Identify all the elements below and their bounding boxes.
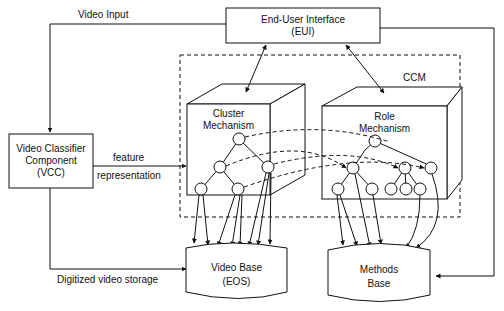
representation-label: representation [97, 170, 161, 182]
methods-base-line2: Base [328, 278, 430, 290]
eui-box-label: End-User Interface (EUI) [226, 14, 380, 38]
digitized-storage-label: Digitized video storage [57, 274, 158, 286]
vcc-box-label: Video Classifier Component (VCC) [9, 143, 93, 179]
eui-abbr: (EUI) [226, 26, 380, 38]
role-line2: Mechanism [322, 123, 447, 135]
video-base-line2: (EOS) [186, 276, 287, 288]
cluster-line1: Cluster [187, 108, 270, 120]
role-mechanism-label: Role Mechanism [322, 111, 447, 135]
ccm-label: CCM [403, 72, 426, 84]
vcc-line1: Video Classifier [9, 143, 93, 155]
architecture-diagram: Video Input End-User Interface (EUI) CCM… [0, 0, 504, 311]
vcc-line2: Component [9, 155, 93, 167]
cluster-cube [187, 84, 305, 195]
methods-base-label: Methods Base [328, 264, 430, 290]
vcc-line3: (VCC) [9, 167, 93, 179]
video-input-label: Video Input [78, 9, 128, 21]
video-base-line1: Video Base [186, 262, 287, 274]
feature-label: feature [113, 152, 144, 164]
digitized-edge [50, 188, 186, 269]
video-base-label: Video Base (EOS) [186, 262, 287, 288]
cluster-line2: Mechanism [187, 120, 270, 132]
eui-role-edge [346, 45, 384, 93]
cluster-mechanism-label: Cluster Mechanism [187, 108, 270, 132]
eui-title: End-User Interface [226, 14, 380, 26]
methods-base-line1: Methods [328, 264, 430, 276]
role-line1: Role [322, 111, 447, 123]
